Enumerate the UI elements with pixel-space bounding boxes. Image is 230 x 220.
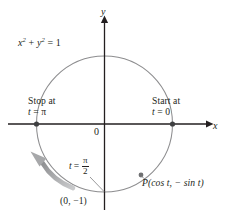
equation-plus: + [26,37,37,48]
fraction-numerator: π [82,156,89,166]
t-half-variable: t [69,161,72,172]
origin-label: 0 [94,126,99,137]
start-callout-value: t = 0 [152,107,180,118]
start-callout-title: Start at [152,96,180,107]
bottom-point-label: (0, −1) [60,196,87,207]
circle-equation-label: x2 + y2 = 1 [18,36,61,49]
start-point-dot [170,121,175,126]
t-half-leader-line [90,177,104,192]
pi-over-two-fraction: π 2 [82,156,89,176]
start-callout: Start at t = 0 [152,96,180,118]
t-half-pi-callout: t = π 2 [69,156,89,176]
stop-callout-value: t = π [28,107,56,118]
stop-callout: Stop at t = π [28,96,56,118]
parametric-unit-circle-figure: x2 + y2 = 1 Stop at t = π Start at t = 0… [0,0,230,220]
stop-callout-title: Stop at [28,96,56,107]
equation-equals-one: = 1 [45,37,61,48]
equation-x-term: x2 [18,37,26,48]
x-axis-label: x [213,120,218,131]
y-axis-label: y [101,6,106,17]
point-coordinates: (cos t, − sin t) [148,177,204,188]
start-t-value: = 0 [157,106,170,117]
stop-t-value: = π [33,106,46,117]
stop-t-variable: t [28,106,31,117]
t-half-equals: = [74,161,80,172]
fraction-denominator: 2 [82,167,89,177]
moving-point-label: P(cos t, − sin t) [142,178,204,189]
equation-y-term: y2 [37,37,45,48]
stop-point-dot [34,121,39,126]
start-t-variable: t [152,106,155,117]
